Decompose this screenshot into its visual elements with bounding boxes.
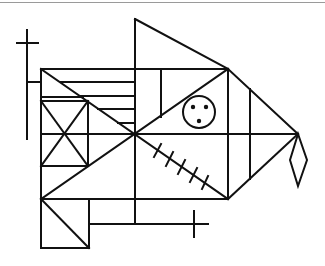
hatch-marks — [154, 144, 208, 189]
lower-left-square — [41, 199, 89, 248]
complex-figure-drawing — [0, 0, 325, 266]
apex-triangle-edge — [135, 19, 228, 69]
top-left-cross — [17, 30, 41, 139]
diamond-pendant — [290, 134, 307, 186]
circle-with-dots — [183, 96, 215, 128]
